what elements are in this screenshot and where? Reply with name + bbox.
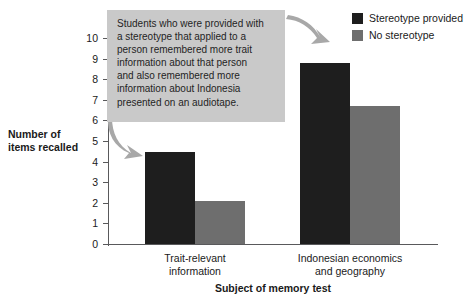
y-tick-label-wrap: 0 (72, 239, 98, 249)
x-axis-category-label-0: Trait-relevant information (120, 252, 270, 278)
annotation-line-6: presented on an audiotape. (117, 96, 276, 109)
annotation-line-0: Students who were provided with (117, 17, 276, 30)
y-tick-label-wrap: 7 (72, 95, 98, 105)
y-tick-label-2: 2 (72, 198, 98, 208)
y-tick-label-wrap: 1 (72, 218, 98, 228)
annotation-line-5: information about Indonesia (117, 82, 276, 95)
y-axis-title: Number of items recalled (8, 128, 102, 154)
annotation-callout: Students who were provided witha stereot… (107, 10, 285, 122)
y-tick-label-wrap: 3 (72, 177, 98, 187)
annotation-line-4: and also remembered more (117, 69, 276, 82)
legend-swatch-icon-1 (352, 30, 363, 41)
y-tick-label-8: 8 (72, 74, 98, 84)
annotation-line-1: a stereotype that applied to a (117, 30, 276, 43)
x-axis-category-label-1: Indonesian economics and geography (275, 252, 425, 278)
y-tick-label-3: 3 (72, 177, 98, 187)
chart-figure: 012345678910 Number of items recalled Tr… (0, 0, 474, 302)
legend-item-0: Stereotype provided (352, 12, 463, 24)
y-tick-label-wrap: 8 (72, 74, 98, 84)
legend-item-1: No stereotype (352, 29, 463, 41)
y-tick-label-wrap: 2 (72, 198, 98, 208)
annotation-callout-text: Students who were provided witha stereot… (117, 17, 276, 109)
y-axis-title-line-1: Number of (8, 128, 102, 141)
y-tick-0 (103, 244, 108, 245)
bar-0-1 (195, 201, 245, 244)
legend-swatch-icon-0 (352, 13, 363, 24)
y-tick-label-wrap: 4 (72, 157, 98, 167)
y-tick-label-4: 4 (72, 157, 98, 167)
x-axis-line (108, 244, 438, 245)
y-tick-label-7: 7 (72, 95, 98, 105)
bar-1-0 (300, 63, 350, 244)
y-tick-label-9: 9 (72, 54, 98, 64)
annotation-line-2: person remembered more trait (117, 43, 276, 56)
x-axis-title: Subject of memory test (108, 282, 438, 294)
bar-0-0 (145, 152, 195, 244)
y-tick-label-1: 1 (72, 218, 98, 228)
category-0-line-2: information (120, 265, 270, 278)
y-tick-label-0: 0 (72, 239, 98, 249)
y-tick-label-10: 10 (72, 33, 98, 43)
bar-1-1 (350, 106, 400, 244)
y-tick-label-wrap: 6 (72, 115, 98, 125)
chart-legend: Stereotype provided No stereotype (352, 12, 463, 46)
y-tick-label-wrap: 9 (72, 54, 98, 64)
y-axis-title-line-2: items recalled (8, 141, 102, 154)
legend-label-0: Stereotype provided (369, 12, 463, 24)
y-tick-label-6: 6 (72, 115, 98, 125)
annotation-line-3: information about that person (117, 56, 276, 69)
category-1-line-2: and geography (275, 265, 425, 278)
y-tick-label-wrap: 10 (72, 33, 98, 43)
category-0-line-1: Trait-relevant (120, 252, 270, 265)
category-1-line-1: Indonesian economics (275, 252, 425, 265)
legend-label-1: No stereotype (369, 29, 434, 41)
